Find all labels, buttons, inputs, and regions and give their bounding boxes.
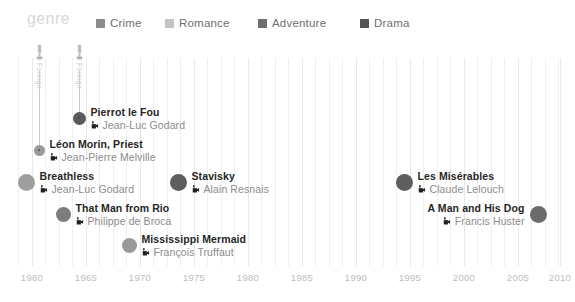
film-title: Mississippi Mermaid: [142, 233, 247, 245]
movie-camera-icon: [418, 185, 427, 194]
axis-tick-label: 2000: [453, 272, 475, 283]
data-point-marker[interactable]: [56, 207, 71, 222]
award-marker[interactable]: Foreign: [32, 44, 46, 89]
film-title: Stavisky: [192, 170, 270, 182]
movie-camera-icon: [76, 217, 85, 226]
axis-tick-label: 2005: [507, 272, 529, 283]
film-title: Pierrot le Fou: [91, 106, 186, 118]
data-point-marker[interactable]: [122, 238, 137, 253]
movie-camera-icon: [192, 185, 201, 194]
axis-tick-label: 1960: [21, 272, 43, 283]
data-point-core: [78, 117, 81, 120]
data-point-marker[interactable]: [396, 174, 413, 191]
oscar-statuette-icon: [34, 44, 45, 62]
x-axis: 1960196519701975198019851990199520002005…: [0, 272, 575, 292]
axis-tick-label: 1970: [129, 272, 151, 283]
movie-camera-icon: [142, 248, 151, 257]
film-title: Breathless: [40, 170, 135, 182]
data-point-marker[interactable]: [34, 145, 45, 156]
axis-tick-label: 1965: [75, 272, 97, 283]
data-point-label: A Man and His DogFrancis Huster: [428, 202, 525, 227]
axis-tick-label: 1995: [399, 272, 421, 283]
director-row: Jean-Luc Godard: [40, 183, 135, 195]
movie-camera-icon: [443, 217, 452, 226]
data-point-core: [38, 149, 41, 152]
director-row: Francis Huster: [428, 215, 525, 227]
award-category-label: Foreign: [76, 63, 83, 89]
director-name: Claude Lelouch: [430, 183, 504, 195]
director-row: Jean-Luc Godard: [91, 119, 186, 131]
movie-camera-icon: [50, 153, 59, 162]
film-title: Léon Morin, Priest: [50, 138, 156, 150]
director-row: Philippe de Broca: [76, 215, 172, 227]
director-row: François Truffaut: [142, 246, 247, 258]
film-title: A Man and His Dog: [428, 202, 525, 214]
data-point-marker[interactable]: [530, 206, 547, 223]
axis-tick-label: 1975: [183, 272, 205, 283]
director-row: Claude Lelouch: [418, 183, 504, 195]
director-name: Alain Resnais: [204, 183, 270, 195]
director-row: Alain Resnais: [192, 183, 270, 195]
director-name: Jean-Pierre Melville: [62, 151, 156, 163]
film-title: Les Misérables: [418, 170, 504, 182]
director-name: Jean-Luc Godard: [103, 119, 186, 131]
data-point-label: Pierrot le FouJean-Luc Godard: [91, 106, 186, 131]
data-point-layer: ForeignPierrot le FouJean-Luc GodardFore…: [0, 0, 575, 302]
axis-tick-label: 1985: [291, 272, 313, 283]
director-name: François Truffaut: [154, 246, 234, 258]
data-point-label: StaviskyAlain Resnais: [192, 170, 270, 195]
data-point-label: Mississippi MermaidFrançois Truffaut: [142, 233, 247, 258]
oscar-statuette-icon: [74, 44, 85, 62]
axis-tick-label: 1990: [345, 272, 367, 283]
data-point-marker[interactable]: [18, 174, 35, 191]
director-name: Philippe de Broca: [88, 215, 172, 227]
movie-camera-icon: [91, 121, 100, 130]
award-marker[interactable]: Foreign: [72, 44, 86, 89]
data-point-label: Léon Morin, PriestJean-Pierre Melville: [50, 138, 156, 163]
movie-camera-icon: [40, 185, 49, 194]
data-point-label: That Man from RioPhilippe de Broca: [76, 202, 172, 227]
award-category-label: Foreign: [36, 63, 43, 89]
genre-timeline-chart: genre CrimeRomanceAdventureDrama Foreign…: [0, 0, 575, 302]
axis-tick-label: 2010: [549, 272, 571, 283]
data-point-label: Les MisérablesClaude Lelouch: [418, 170, 504, 195]
director-name: Jean-Luc Godard: [52, 183, 135, 195]
data-point-label: BreathlessJean-Luc Godard: [40, 170, 135, 195]
film-title: That Man from Rio: [76, 202, 172, 214]
director-row: Jean-Pierre Melville: [50, 151, 156, 163]
data-point-marker[interactable]: [170, 174, 187, 191]
axis-tick-label: 1980: [237, 272, 259, 283]
director-name: Francis Huster: [455, 215, 525, 227]
data-point-marker[interactable]: [73, 112, 86, 125]
